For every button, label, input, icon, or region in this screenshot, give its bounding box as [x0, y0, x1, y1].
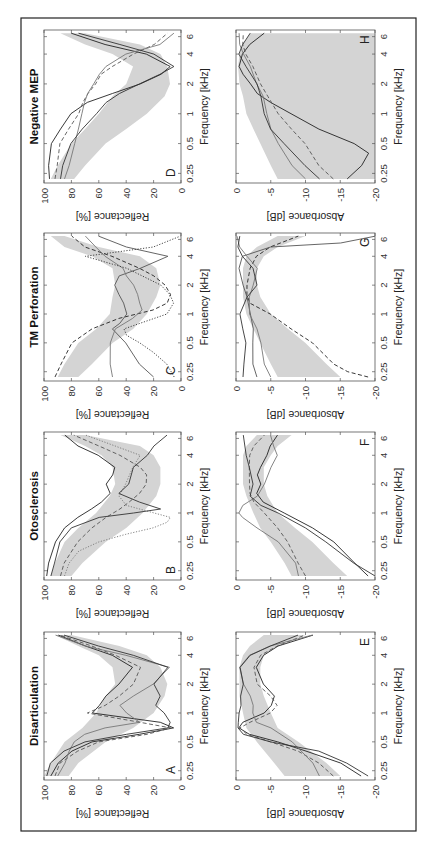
x-tick-label: 4: [378, 51, 389, 56]
y-tick-label: -5: [265, 386, 276, 394]
y-tick-label: 0: [176, 585, 187, 590]
plot-area: [47, 435, 171, 576]
y-tick-label: 20: [148, 386, 159, 397]
x-tick-label: 4: [184, 51, 195, 56]
y-tick-label: 20: [148, 188, 159, 199]
x-axis-label: Frequency [kHz]: [392, 468, 404, 545]
x-tick-label: 0.25: [184, 164, 195, 183]
normative-range-band: [240, 635, 341, 776]
panel-title: TM Perforation: [28, 266, 40, 347]
x-tick-label: 0.5: [184, 735, 195, 748]
x-tick-label: 6: [378, 636, 389, 641]
x-tick-label: 2: [378, 682, 389, 687]
y-tick-label: -20: [370, 386, 381, 400]
y-tick-label: 40: [121, 585, 132, 596]
x-tick-label: 0.5: [378, 735, 389, 748]
y-tick-label: -15: [335, 386, 346, 400]
panel-a: 0.250.51246Frequency [kHz]020406080100Re…: [28, 632, 210, 820]
y-tick-label: 0: [176, 785, 187, 790]
x-tick-label: 4: [184, 453, 195, 458]
y-axis-label: Reflectance [%]: [76, 211, 150, 223]
y-tick-label: -10: [300, 188, 311, 202]
y-tick-label: 0: [176, 386, 187, 391]
panel-letter: E: [358, 638, 372, 646]
x-axis-label: Frequency [kHz]: [392, 668, 404, 745]
y-tick-label: -15: [335, 188, 346, 202]
x-tick-label: 4: [378, 254, 389, 259]
plot-area: [51, 236, 181, 377]
y-tick-label: 0: [176, 188, 187, 193]
plot-area: [49, 33, 174, 179]
x-tick-label: 0.5: [184, 137, 195, 150]
normative-range-band: [51, 236, 161, 377]
x-tick-label: 1: [184, 510, 195, 515]
x-tick-label: 2: [184, 682, 195, 687]
y-tick-label: -5: [265, 785, 276, 793]
x-axis-label: Frequency [kHz]: [392, 68, 404, 145]
x-tick-label: 0.5: [184, 336, 195, 349]
panel-c: 0.250.51246Frequency [kHz]020406080100Re…: [28, 233, 210, 421]
panel-b: 0.250.51246Frequency [kHz]020406080100Re…: [28, 432, 210, 620]
panel-title: Otosclerosis: [28, 471, 40, 541]
y-tick-label: 60: [93, 386, 104, 397]
y-tick-label: -20: [370, 188, 381, 202]
y-tick-label: -20: [370, 585, 381, 599]
panel-letter: C: [164, 366, 178, 375]
normative-range-band: [51, 435, 161, 576]
panel-letter: G: [358, 238, 372, 247]
y-tick-label: 100: [39, 585, 50, 601]
x-axis-label: Frequency [kHz]: [198, 68, 210, 145]
x-tick-label: 1: [378, 111, 389, 116]
y-tick-label: -10: [300, 785, 311, 799]
y-tick-label: -15: [335, 585, 346, 599]
panel-f: 0.250.51246Frequency [kHz]-20-15-10-50Ab…: [231, 432, 405, 620]
x-tick-label: 0.25: [184, 761, 195, 780]
x-tick-label: 2: [378, 482, 389, 487]
panel-h: 0.250.51246Frequency [kHz]-20-15-10-50Ab…: [231, 30, 410, 223]
y-tick-label: 40: [121, 386, 132, 397]
panels-group: 0.250.51246Frequency [kHz]020406080100Re…: [28, 30, 410, 820]
y-tick-label: -15: [335, 785, 346, 799]
x-tick-label: 0.25: [378, 761, 389, 780]
figure-svg: 0.250.51246Frequency [kHz]020406080100Re…: [0, 0, 428, 859]
panel-d: 0.250.51246Frequency [kHz]020406080100Re…: [28, 30, 210, 223]
panel-letter: H: [358, 35, 372, 44]
x-tick-label: 0.25: [184, 362, 195, 381]
panel-letter: D: [164, 168, 178, 177]
x-tick-label: 0.5: [378, 336, 389, 349]
panel-letter: A: [164, 766, 178, 774]
plot-area: [237, 236, 376, 377]
x-tick-label: 0.5: [184, 535, 195, 548]
y-tick-label: -5: [265, 585, 276, 593]
y-tick-label: 60: [93, 188, 104, 199]
y-tick-label: 20: [148, 785, 159, 796]
x-tick-label: 1: [184, 311, 195, 316]
x-axis-label: Frequency [kHz]: [392, 269, 404, 346]
plot-area: [238, 635, 368, 776]
x-tick-label: 0.5: [378, 137, 389, 150]
y-tick-label: 80: [66, 585, 77, 596]
x-tick-label: 6: [378, 237, 389, 242]
x-tick-label: 1: [184, 710, 195, 715]
x-axis-label: Frequency [kHz]: [198, 468, 210, 545]
x-tick-label: 2: [378, 81, 389, 86]
x-tick-label: 1: [378, 311, 389, 316]
y-axis-label: Reflectance [%]: [76, 608, 150, 620]
x-tick-label: 6: [184, 237, 195, 242]
x-tick-label: 6: [378, 34, 389, 39]
x-tick-label: 0.25: [184, 561, 195, 580]
y-tick-label: 100: [39, 188, 50, 204]
x-tick-label: 6: [378, 436, 389, 441]
panel-letter: B: [164, 566, 178, 574]
x-tick-label: 4: [378, 453, 389, 458]
x-tick-label: 1: [378, 710, 389, 715]
x-tick-label: 2: [378, 283, 389, 288]
y-tick-label: 80: [66, 188, 77, 199]
y-axis-label: Reflectance [%]: [76, 808, 150, 820]
x-tick-label: 2: [184, 283, 195, 288]
y-tick-label: 80: [66, 386, 77, 397]
y-tick-label: -5: [265, 188, 276, 196]
x-axis-label: Frequency [kHz]: [198, 269, 210, 346]
x-tick-label: 0.25: [378, 561, 389, 580]
panel-letter: F: [358, 439, 372, 446]
